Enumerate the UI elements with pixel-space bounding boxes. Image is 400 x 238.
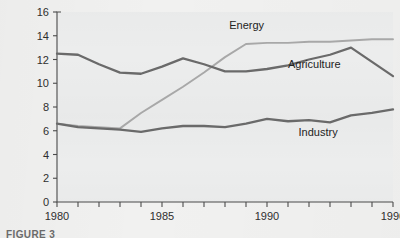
y-axis-ticks: 0246810121416 (37, 6, 57, 208)
svg-text:1996: 1996 (381, 210, 400, 222)
svg-text:1990: 1990 (255, 210, 279, 222)
series-line-energy (57, 39, 393, 128)
series-label-energy: Energy (229, 19, 264, 31)
svg-text:10: 10 (37, 77, 49, 89)
svg-text:1980: 1980 (45, 210, 69, 222)
series-line-industry (57, 109, 393, 132)
svg-text:12: 12 (37, 54, 49, 66)
svg-text:6: 6 (43, 125, 49, 137)
series-annotations: EnergyAgricultureIndustry (229, 19, 340, 138)
series-lines (57, 39, 393, 132)
svg-text:14: 14 (37, 30, 49, 42)
svg-text:16: 16 (37, 6, 49, 18)
svg-text:0: 0 (43, 196, 49, 208)
series-label-industry: Industry (299, 126, 339, 138)
svg-text:1985: 1985 (150, 210, 174, 222)
series-line-agriculture (57, 48, 393, 76)
svg-text:8: 8 (43, 101, 49, 113)
figure-container: Million metric tons carbon equivalent 02… (0, 0, 400, 238)
series-label-agriculture: Agriculture (288, 58, 341, 70)
svg-text:2: 2 (43, 172, 49, 184)
svg-text:4: 4 (43, 149, 49, 161)
figure-caption: FIGURE 3 (6, 229, 55, 238)
line-chart: 0246810121416 1980198519901996 EnergyAgr… (0, 0, 400, 238)
x-axis-ticks: 1980198519901996 (45, 202, 400, 222)
